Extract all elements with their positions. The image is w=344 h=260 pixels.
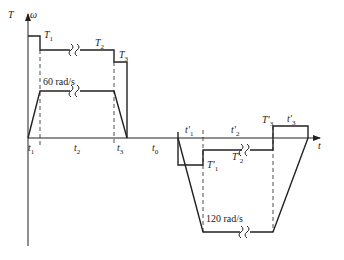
axis-label-t: t	[318, 141, 321, 151]
label-T3: T3	[119, 50, 128, 63]
label-t3: t3	[117, 143, 123, 156]
label-speed-120: 120 rad/s	[206, 214, 243, 224]
label-speed-60: 60 rad/s	[43, 77, 75, 87]
label-t1: t1	[28, 143, 34, 156]
label-T2-prime: T′2	[232, 152, 243, 165]
label-t0: t0	[152, 143, 158, 156]
label-t2: t2	[74, 143, 80, 156]
break-mark-icon	[69, 44, 79, 97]
forward-speed-curve	[28, 91, 70, 138]
label-t1-prime: t′1	[185, 125, 193, 138]
axis-label-omega: ω	[30, 10, 37, 20]
label-t3-prime: t′3	[287, 114, 295, 127]
label-t2-prime: t′2	[231, 125, 239, 138]
label-T1: T1	[44, 30, 53, 43]
label-T1-prime: T′1	[207, 160, 218, 173]
label-T3-prime: T′3	[262, 115, 273, 128]
label-T2: T2	[95, 38, 104, 51]
axis-label-T: T	[8, 10, 14, 20]
